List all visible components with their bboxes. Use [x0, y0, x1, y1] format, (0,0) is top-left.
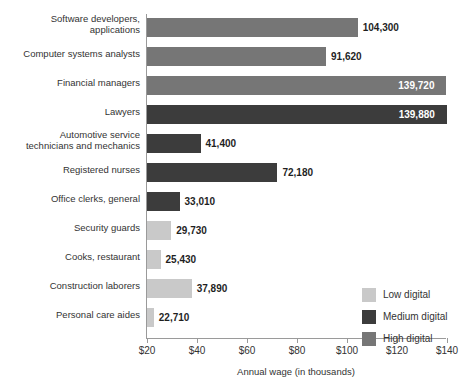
x-axis-tick [447, 338, 448, 343]
bar-medium[interactable] [147, 134, 201, 153]
bar-value-label: 139,880 [399, 105, 435, 124]
x-axis-tick-label: $60 [239, 345, 256, 356]
category-label: Office clerks, general [8, 193, 146, 204]
chart-row: Software developers,applications104,300 [0, 14, 470, 43]
x-axis-tick [197, 338, 198, 343]
bar-low[interactable] [147, 250, 161, 269]
x-axis-tick-label: $20 [139, 345, 156, 356]
chart-row: Automotive servicetechnicians and mechan… [0, 130, 470, 159]
category-label: Registered nurses [8, 164, 146, 175]
x-axis-tick [247, 338, 248, 343]
chart-figure: FIGURE 10 Software developers,applicatio… [0, 0, 470, 380]
bar-value-label: 41,400 [206, 134, 237, 153]
x-axis-tick [347, 338, 348, 343]
category-label: Lawyers [8, 106, 146, 117]
chart-row: Cooks, restaurant25,430 [0, 246, 470, 275]
chart-row: Lawyers139,880 [0, 101, 470, 130]
x-axis-tick-label: $100 [336, 345, 358, 356]
legend-label: Low digital [383, 286, 430, 304]
category-label: Construction laborers [8, 280, 146, 291]
x-axis-tick-label: $80 [289, 345, 306, 356]
legend-label: Medium digital [383, 308, 447, 326]
bar-medium[interactable] [147, 163, 277, 182]
chart-row: Office clerks, general33,010 [0, 188, 470, 217]
plot-area: Software developers,applications104,300C… [0, 14, 470, 344]
chart-row: Registered nurses72,180 [0, 159, 470, 188]
x-axis-tick-label: $140 [436, 345, 458, 356]
bar-value-label: 139,720 [398, 76, 434, 95]
x-axis-title: Annual wage (in thousands) [146, 366, 446, 377]
bar-value-label: 25,430 [166, 250, 197, 269]
category-label: Automotive servicetechnicians and mechan… [8, 129, 146, 151]
figure-title-clipped: FIGURE 10 [18, 0, 62, 1]
chart-row: Security guards29,730 [0, 217, 470, 246]
bar-value-label: 104,300 [363, 18, 399, 37]
chart-row: Financial managers139,720 [0, 72, 470, 101]
bar-value-label: 72,180 [282, 163, 313, 182]
bar-low[interactable] [147, 279, 192, 298]
legend-swatch-icon [362, 332, 376, 346]
legend-swatch-icon [362, 288, 376, 302]
bar-value-label: 29,730 [176, 221, 207, 240]
x-axis-tick-label: $40 [189, 345, 206, 356]
bar-high[interactable] [147, 18, 358, 37]
category-label: Financial managers [8, 77, 146, 88]
legend-swatch-icon [362, 310, 376, 324]
bar-low[interactable] [147, 308, 154, 327]
category-label: Software developers,applications [8, 13, 146, 35]
bar-medium[interactable] [147, 192, 180, 211]
chart-row: Computer systems analysts91,620 [0, 43, 470, 72]
bar-value-label: 91,620 [331, 47, 362, 66]
category-label: Security guards [8, 222, 146, 233]
x-axis-tick [147, 338, 148, 343]
bar-low[interactable] [147, 221, 171, 240]
legend-label: High digital [383, 330, 432, 348]
category-label: Personal care aides [8, 309, 146, 320]
bar-value-label: 22,710 [159, 308, 190, 327]
category-label: Cooks, restaurant [8, 251, 146, 262]
x-axis-tick [297, 338, 298, 343]
bar-high[interactable] [147, 47, 326, 66]
bar-value-label: 37,890 [197, 279, 228, 298]
bar-value-label: 33,010 [185, 192, 216, 211]
category-label: Computer systems analysts [8, 48, 146, 59]
